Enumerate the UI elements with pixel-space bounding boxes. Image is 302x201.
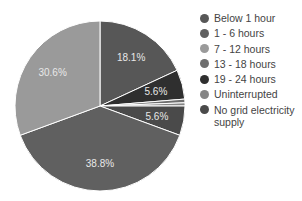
slice-percent-label: 5.6% bbox=[146, 111, 169, 122]
legend-item-uninterrupted[interactable]: Uninterrupted bbox=[200, 88, 295, 103]
slice-percent-label: 38.8% bbox=[86, 158, 114, 169]
legend-label: 19 - 24 hours bbox=[214, 73, 276, 85]
legend-swatch-icon bbox=[200, 90, 209, 99]
legend-item-7-12-hours[interactable]: 7 - 12 hours bbox=[200, 43, 295, 58]
slice-percent-label: 18.1% bbox=[117, 52, 145, 63]
legend-item-no-grid-electricity[interactable]: No grid electricity supply bbox=[200, 104, 295, 132]
legend-label: No grid electricity supply bbox=[214, 104, 295, 128]
legend-item-19-24-hours[interactable]: 19 - 24 hours bbox=[200, 73, 295, 88]
legend-item-13-18-hours[interactable]: 13 - 18 hours bbox=[200, 58, 295, 73]
legend-item-1-6-hours[interactable]: 1 - 6 hours bbox=[200, 27, 295, 42]
legend-swatch-icon bbox=[200, 59, 209, 68]
legend-label: Uninterrupted bbox=[214, 88, 278, 100]
legend-label: 1 - 6 hours bbox=[214, 27, 264, 39]
slice-percent-label: 30.6% bbox=[38, 67, 66, 78]
legend-swatch-icon bbox=[200, 105, 209, 114]
legend-label: 7 - 12 hours bbox=[214, 43, 270, 55]
legend-label: Below 1 hour bbox=[214, 12, 275, 24]
chart-legend: Below 1 hour 1 - 6 hours 7 - 12 hours 13… bbox=[200, 12, 295, 132]
pie-chart: 18.1%5.6%5.6%38.8%30.6% bbox=[0, 0, 195, 201]
legend-item-below-1-hour[interactable]: Below 1 hour bbox=[200, 12, 295, 27]
legend-swatch-icon bbox=[200, 44, 209, 53]
legend-label: 13 - 18 hours bbox=[214, 58, 276, 70]
legend-swatch-icon bbox=[200, 75, 209, 84]
legend-swatch-icon bbox=[200, 14, 209, 23]
slice-percent-label: 5.6% bbox=[144, 86, 167, 97]
legend-swatch-icon bbox=[200, 29, 209, 38]
